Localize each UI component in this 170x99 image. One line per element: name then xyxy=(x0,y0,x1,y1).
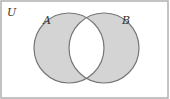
venn-diagram: U A B xyxy=(0,0,170,99)
universe-label: U xyxy=(7,6,17,19)
set-b-label: B xyxy=(121,14,130,27)
venn-svg: U A B xyxy=(0,0,170,99)
set-a-label: A xyxy=(42,14,51,27)
